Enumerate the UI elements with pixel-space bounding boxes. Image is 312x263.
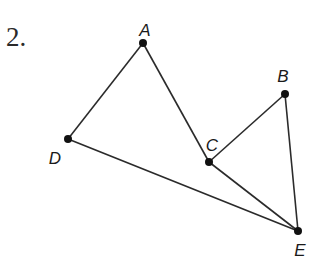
problem-number: 2. [6, 22, 26, 52]
point-c [205, 158, 213, 166]
segment-ce [209, 162, 298, 231]
point-d [64, 135, 72, 143]
segment-ad [68, 43, 143, 139]
label-e: E [294, 241, 306, 260]
point-b [281, 90, 289, 98]
point-a [139, 39, 147, 47]
label-a: A [138, 21, 150, 40]
point-labels: A B C D E [49, 21, 306, 260]
label-c: C [206, 136, 219, 155]
label-b: B [277, 67, 288, 86]
segment-ac [143, 43, 209, 162]
point-e [294, 227, 302, 235]
segment-de [68, 139, 298, 231]
label-d: D [49, 149, 61, 168]
segment-cb [209, 94, 285, 162]
geometry-diagram: 2. A B C D E [0, 0, 312, 263]
segment-be [285, 94, 298, 231]
segments [68, 43, 298, 231]
